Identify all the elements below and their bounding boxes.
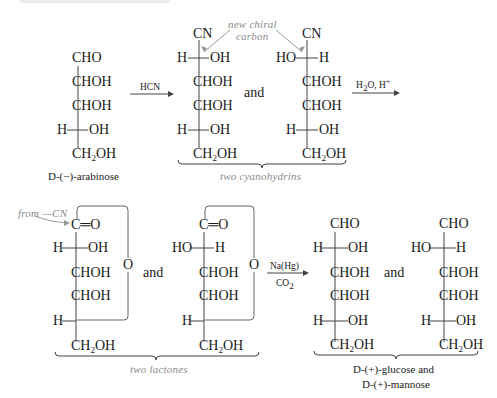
label-two-lactones: two lactones <box>130 363 188 375</box>
cyano2-c6: CH2OH <box>302 147 346 161</box>
lactone1-c5-left: H <box>53 314 63 328</box>
lactone2-c2-left: HO <box>172 241 192 255</box>
cyano1-cn: CN <box>193 27 212 41</box>
cyano1-c6: CH2OH <box>193 147 237 161</box>
glucose-c1: CHO <box>330 217 360 231</box>
glucose-c5-right: OH <box>348 314 368 328</box>
lactone1-c4: CHOH <box>71 289 111 303</box>
glucose-c4: CHOH <box>330 289 370 303</box>
lactone2-c4: CHOH <box>199 289 239 303</box>
cyano2-c5-left: H <box>286 123 296 137</box>
mannose-c5-right: OH <box>456 314 476 328</box>
glucose-c3: CHOH <box>330 266 370 280</box>
arabinose-c4-right: OH <box>89 123 109 137</box>
and-text-3: and <box>384 266 404 280</box>
cyano1-c2-left: H <box>177 51 187 65</box>
lactone2-carbonyl: C═O <box>199 218 228 232</box>
lactone1-c2-right: OH <box>88 241 108 255</box>
cyano1-c5-left: H <box>177 123 187 137</box>
annotation-carbon: carbon <box>236 30 268 42</box>
glucose-c2-right: OH <box>348 241 368 255</box>
glucose-c5-left: H <box>313 314 323 328</box>
cyano2-c2-right: H <box>319 51 329 65</box>
arabinose-c1: CHO <box>72 51 102 65</box>
mannose-c5-left: H <box>421 314 431 328</box>
and-text-1: and <box>244 86 264 100</box>
reagent-hcn: HCN <box>140 82 160 92</box>
reagent-nahg: Na(Hg) <box>270 261 299 271</box>
lactone1-c3: CHOH <box>71 266 111 280</box>
annotation-from-cn: from —CN <box>18 207 67 219</box>
cyano1-c2-right: OH <box>210 51 230 65</box>
glucose-c6: CH2OH <box>330 338 374 352</box>
mannose-c2-left: HO <box>411 241 431 255</box>
cyano2-c3: CHOH <box>302 75 342 89</box>
cyano2-c2-left: HO <box>276 51 296 65</box>
arabinose-name: D-(−)-arabinose <box>48 170 119 182</box>
mannose-c1: CHO <box>439 217 469 231</box>
cyano1-c4: CHOH <box>193 99 233 113</box>
lactone1-c2-left: H <box>53 241 63 255</box>
and-text-2: and <box>143 266 163 280</box>
cyano1-c3: CHOH <box>193 75 233 89</box>
mannose-c4: CHOH <box>439 289 479 303</box>
mannose-c6: CH2OH <box>439 338 483 352</box>
label-two-cyanohydrins: two cyanohydrins <box>220 170 301 182</box>
arabinose-c2: CHOH <box>72 75 112 89</box>
lactone1-carbonyl: C═O <box>71 218 100 232</box>
cyano2-c4: CHOH <box>302 99 342 113</box>
mannose-c2-right: H <box>456 241 466 255</box>
arabinose-c3: CHOH <box>72 99 112 113</box>
reagent-h2o-h: H2O, H+ <box>356 80 390 90</box>
reagent-co2: CO2 <box>276 278 294 288</box>
lactone2-ring-oxygen: O <box>249 258 259 272</box>
arabinose-c4-left: H <box>57 123 67 137</box>
label-products-line1: D-(+)-glucose and <box>353 363 434 375</box>
arabinose-c5: CH2OH <box>72 147 116 161</box>
cyano2-c5-right: OH <box>319 123 339 137</box>
cyano1-c5-right: OH <box>210 123 230 137</box>
glucose-c2-left: H <box>313 241 323 255</box>
mannose-c3: CHOH <box>439 266 479 280</box>
cyano2-cn: CN <box>302 27 321 41</box>
lactone2-c3: CHOH <box>199 266 239 280</box>
lactone2-c2-right: H <box>215 241 225 255</box>
annotation-new-chiral: new chiral <box>228 18 277 30</box>
label-products-line2: D-(+)-mannose <box>362 378 430 390</box>
lactone2-c6: CH2OH <box>199 339 243 353</box>
lactone1-c6: CH2OH <box>71 339 115 353</box>
lactone1-ring-oxygen: O <box>123 258 133 272</box>
lactone2-c5-left: H <box>182 314 192 328</box>
